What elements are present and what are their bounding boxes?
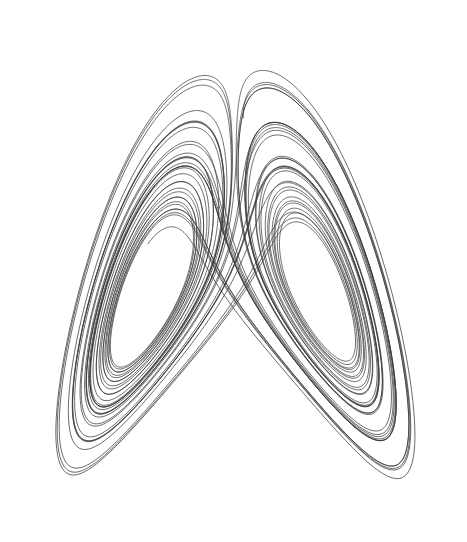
plot-background (0, 0, 467, 542)
attractor-plot-canvas (0, 0, 467, 542)
lorenz-attractor-figure (0, 0, 467, 542)
